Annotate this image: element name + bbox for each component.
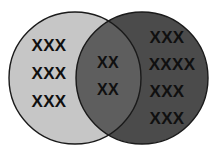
right-set-mark-row: XXX <box>150 82 185 101</box>
left-set-mark-row: XXX <box>32 92 67 111</box>
intersection-mark-row: XX <box>97 81 119 98</box>
venn-diagram-canvas: XXX XXX XXX XX XX XXX XXXX XXX XXX <box>0 0 217 155</box>
right-set-mark-row: XXX <box>150 109 185 128</box>
right-set-mark-row: XXX <box>150 28 185 47</box>
intersection-mark-row: XX <box>97 54 119 71</box>
left-set-mark-row: XXX <box>32 64 67 83</box>
left-set-mark-row: XXX <box>32 36 67 55</box>
left-set-marks: XXX XXX XXX <box>32 36 67 111</box>
right-set-mark-row: XXXX <box>149 55 196 74</box>
venn-diagram: XXX XXX XXX XX XX XXX XXXX XXX XXX <box>0 0 217 155</box>
